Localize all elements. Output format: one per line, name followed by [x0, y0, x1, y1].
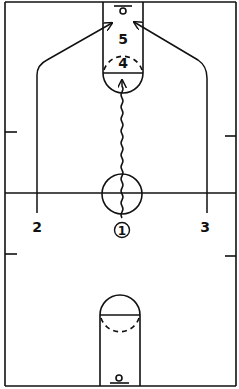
- player-2-label: 2: [32, 219, 42, 235]
- player-3-label: 3: [200, 219, 210, 235]
- player-labels: 5 4 2 3 1: [32, 31, 210, 238]
- player-1-label: 1: [118, 224, 126, 238]
- basketball-court-diagram: 5 4 2 3 1: [0, 0, 239, 389]
- cut-path-player-3: [134, 22, 207, 213]
- top-key: [103, 2, 143, 93]
- rim: [116, 375, 122, 381]
- rim: [120, 8, 126, 14]
- movement-paths: [37, 22, 207, 218]
- cut-path-player-2: [37, 23, 112, 213]
- player-5-label: 5: [118, 31, 128, 47]
- dribble-path-player-1: [121, 80, 123, 218]
- player-4-label: 4: [118, 55, 128, 71]
- bottom-key: [100, 295, 140, 386]
